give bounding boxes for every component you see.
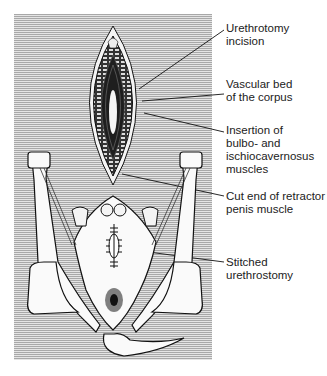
label-muscle-insertion: Insertion of bulbo- and ischiocavernosus… <box>226 124 314 176</box>
surgical-illustration <box>0 0 327 376</box>
urethra-lumen <box>109 90 117 134</box>
label-retractor-penis: Cut end of retractor penis muscle <box>226 190 325 216</box>
label-vascular-bed: Vascular bed of the corpus <box>226 78 292 104</box>
label-stitched-urethrostomy: Stitched urethrostomy <box>226 256 293 282</box>
label-urethrotomy-incision: Urethrotomy incision <box>226 22 289 48</box>
